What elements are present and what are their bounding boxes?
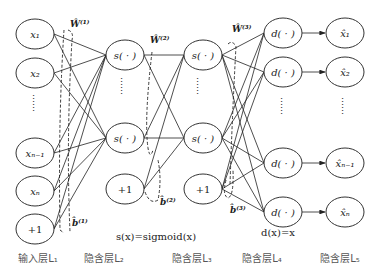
bias-b3-label: b̂⁽³⁾: [230, 203, 246, 215]
ellipsis-l2: ……: [119, 77, 129, 95]
layer-l4: d( · ) d( · ) …… d( · ) d( · ): [264, 18, 302, 227]
node-l3-s1-label: s( · ): [192, 50, 215, 61]
node-xn-label: xₙ: [30, 186, 40, 197]
layer-l1: x₁ x₂ …… xₙ₋₁ xₙ +1: [16, 19, 54, 244]
node-l4-d1-label: d( · ): [271, 28, 295, 39]
node-xhatn-1-label: x̂ₙ₋₁: [336, 158, 355, 169]
node-xhat1-label: x̂₁: [340, 28, 350, 39]
layer-label-l3: 隐含层L₃: [172, 252, 212, 264]
layer-label-l4: 隐含层L₄: [242, 252, 282, 264]
node-bias-l2-label: +1: [118, 184, 133, 195]
w1-bracket-2: [68, 30, 73, 232]
edges-l3-l4: [222, 33, 264, 212]
autoencoder-network-diagram: x₁ x₂ …… xₙ₋₁ xₙ +1 s( · ) …… s( · ) +1 …: [0, 0, 378, 278]
weight-w2-label: Ŵ⁽²⁾: [150, 34, 170, 45]
weight-w1-label: Ŵ⁽¹⁾: [70, 18, 90, 29]
ellipsis-l3: ……: [195, 77, 205, 95]
bias-b2-label: b̂⁽²⁾: [160, 195, 176, 207]
layer-label-l2: 隐含层L₂: [84, 252, 124, 264]
bias-b1-label: b̂⁽¹⁾: [72, 216, 88, 228]
node-l4-d4-label: d( · ): [271, 207, 295, 218]
layer-label-l5: 隐含层L₅: [320, 252, 360, 264]
node-l4-d2-label: d( · ): [271, 67, 295, 78]
layer-l5: x̂₁ x̂₂ …… x̂ₙ₋₁ x̂ₙ: [326, 18, 364, 227]
identity-formula: d(x)=x: [261, 227, 295, 238]
node-xn-1-label: xₙ₋₁: [26, 148, 45, 159]
node-l4-d3-label: d( · ): [271, 158, 295, 169]
layer-l2: s( · ) …… s( · ) +1: [106, 40, 144, 204]
node-xhat2-label: x̂₂: [340, 67, 350, 78]
edges-l1-l2: [54, 34, 106, 229]
sigmoid-formula: s(x)=sigmoid(x): [116, 231, 196, 242]
ellipsis-l4: ……: [279, 97, 289, 115]
node-l3-s2-label: s( · ): [192, 133, 215, 144]
weight-w3-label: Ŵ⁽³⁾: [232, 23, 252, 34]
b2-bracket: [145, 160, 160, 201]
node-bias-l1-label: +1: [28, 224, 43, 235]
ellipsis-l5: ……: [340, 97, 350, 115]
node-xhatn-label: x̂ₙ: [340, 207, 350, 218]
ellipsis-l1: ……: [31, 94, 41, 112]
layer-l3: s( · ) …… s( · ) +1: [184, 40, 222, 204]
node-x2-label: x₂: [30, 68, 40, 79]
node-l2-s1-label: s( · ): [114, 50, 137, 61]
edges-l2-l3: [144, 55, 184, 189]
layer-label-l1: 输入层L₁: [18, 252, 58, 264]
edges-l4-l5: [302, 33, 325, 212]
node-x1-label: x₁: [30, 29, 40, 40]
node-l2-s2-label: s( · ): [114, 133, 137, 144]
node-bias-l3-label: +1: [196, 184, 211, 195]
